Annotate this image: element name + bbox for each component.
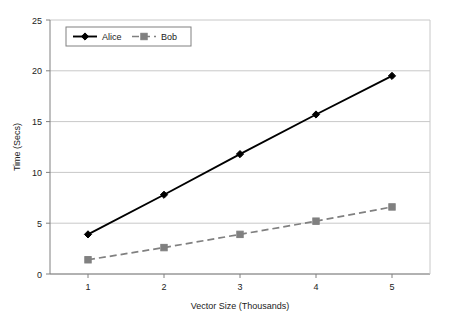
y-tick-label: 20 [32, 66, 42, 76]
line-chart: 0510152025 12345 Time (Secs) Vector Size… [0, 0, 451, 320]
y-axis-title: Time (Secs) [12, 123, 22, 171]
chart-container: 0510152025 12345 Time (Secs) Vector Size… [0, 0, 451, 320]
x-tick-label: 1 [85, 282, 90, 292]
y-tick-label: 25 [32, 16, 42, 26]
legend-label-alice: Alice [102, 32, 122, 42]
data-point-bob-4 [313, 218, 319, 224]
x-tick-label: 2 [161, 282, 166, 292]
legend-marker-bob [141, 33, 147, 39]
x-tick-label: 4 [313, 282, 318, 292]
x-tick-label: 3 [237, 282, 242, 292]
y-tick-label: 5 [37, 219, 42, 229]
chart-background [0, 0, 451, 320]
x-axis-title: Vector Size (Thousands) [191, 301, 290, 311]
legend: AliceBob [66, 27, 191, 46]
data-point-bob-2 [161, 244, 167, 250]
data-point-bob-5 [389, 204, 395, 210]
legend-label-bob: Bob [161, 32, 177, 42]
y-tick-label: 10 [32, 168, 42, 178]
y-tick-label: 0 [37, 270, 42, 280]
data-point-bob-3 [237, 231, 243, 237]
y-tick-label: 15 [32, 117, 42, 127]
x-tick-label: 5 [389, 282, 394, 292]
data-point-bob-1 [85, 257, 91, 263]
